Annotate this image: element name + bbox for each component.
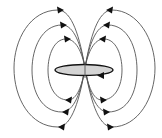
arrow-icon [64,36,71,43]
arrow-icon [65,97,72,104]
arrow-icon [100,97,107,104]
arrow-icon [57,7,64,14]
arrow-icon [62,109,69,116]
arrow-icon [60,22,67,29]
arrow-icon [106,7,113,14]
magnetic-field-diagram [0,0,162,138]
current-loop [55,62,113,79]
current-loop-ellipse [55,65,113,76]
arrow-icon [58,124,65,131]
arrow-icon [99,36,106,43]
arrow-icon [107,124,114,131]
arrow-icon [103,22,110,29]
arrow-icon [103,109,110,116]
